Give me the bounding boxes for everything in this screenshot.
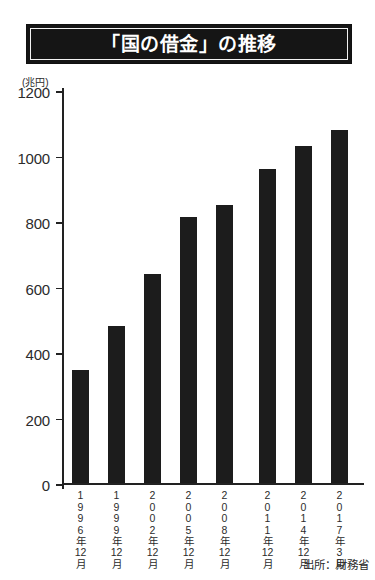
bar: 2002年12月 (144, 274, 161, 484)
y-axis-tick-label: 800 (26, 215, 50, 232)
x-axis-tick-label: 2011年12月 (259, 490, 276, 570)
y-axis-tick-label: 200 (26, 411, 50, 428)
source-note: 出所：財務省 (303, 556, 369, 572)
bar: 2011年12月 (259, 169, 276, 483)
x-axis-tick-label: 2008年12月 (216, 490, 233, 570)
x-axis-tick-label: 2005年12月 (180, 490, 197, 570)
chart-title-banner-inner: 「国の借金」の推移 (30, 28, 348, 60)
y-axis-tick: 1200 (56, 91, 63, 93)
y-axis-tick: 400 (56, 353, 63, 355)
chart-title-banner: 「国の借金」の推移 (26, 24, 352, 64)
bar: 1996年12月 (72, 370, 89, 483)
x-axis-tick-label: 1996年12月 (72, 490, 89, 570)
chart-figure: 「国の借金」の推移 (兆円) 020040060080010001200 199… (0, 0, 375, 580)
y-axis-tick-label: 1000 (17, 149, 50, 166)
x-axis-line (62, 483, 364, 485)
y-axis-tick: 800 (56, 222, 63, 224)
y-axis-tick-label: 0 (42, 477, 50, 494)
bar: 2017年3月 (331, 130, 348, 484)
page-title: 「国の借金」の推移 (101, 35, 277, 54)
y-axis-tick: 200 (56, 419, 63, 421)
bar: 1999年12月 (108, 326, 125, 483)
x-axis-tick-label: 1999年12月 (108, 490, 125, 570)
y-axis-tick-label: 1200 (17, 84, 50, 101)
y-axis-tick: 0 (56, 484, 63, 486)
y-axis-tick-label: 600 (26, 280, 50, 297)
bar: 2008年12月 (216, 205, 233, 483)
y-axis-tick: 1000 (56, 157, 63, 159)
bar: 2014年12月 (295, 146, 312, 483)
y-axis-tick: 600 (56, 288, 63, 290)
y-axis-tick-label: 400 (26, 346, 50, 363)
bar: 2005年12月 (180, 217, 197, 484)
plot-area: 020040060080010001200 1996年12月1999年12月20… (62, 92, 364, 485)
x-axis-tick-label: 2002年12月 (144, 490, 161, 570)
